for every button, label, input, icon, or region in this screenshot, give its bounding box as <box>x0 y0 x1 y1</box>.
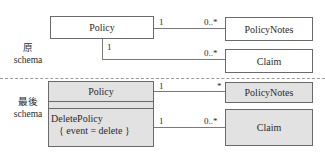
multiplicity-label: 1 <box>159 18 164 27</box>
class-name: PolicyNotes <box>245 87 294 98</box>
label-line2: schema <box>8 108 48 120</box>
policy-class-final: Policy DeletePolicy { event = delete } <box>48 81 154 147</box>
class-name: Policy <box>89 22 115 33</box>
original-schema-label: 原 schema <box>8 42 48 66</box>
class-name: Claim <box>257 56 281 67</box>
multiplicity-label: 1 <box>159 117 164 126</box>
policy-class-original: Policy <box>50 16 154 39</box>
operation-compartment: DeletePolicy { event = delete } <box>51 113 130 137</box>
class-name: Claim <box>257 122 281 133</box>
policynotes-class-final: PolicyNotes <box>225 82 313 103</box>
final-schema-label: 最後 schema <box>8 96 48 120</box>
label-line1: 原 <box>8 42 48 54</box>
compartment-divider <box>49 108 153 109</box>
association-line-claim-final <box>154 127 225 128</box>
association-line-notes-original <box>154 28 225 29</box>
association-line-claim-vertical <box>102 39 103 60</box>
association-line-notes-final <box>154 91 225 92</box>
event-constraint: { event = delete } <box>51 125 130 137</box>
association-line-claim-horizontal <box>102 59 225 60</box>
label-line1: 最後 <box>8 96 48 108</box>
multiplicity-label: 0..* <box>204 117 218 126</box>
operation-name: DeletePolicy <box>51 113 130 125</box>
class-name: PolicyNotes <box>245 24 294 35</box>
class-name: Policy <box>49 82 153 101</box>
section-divider <box>0 78 325 79</box>
claim-class-final: Claim <box>225 109 313 146</box>
multiplicity-label: 0..* <box>204 49 218 58</box>
policynotes-class-original: PolicyNotes <box>225 17 313 41</box>
multiplicity-label: 1 <box>107 43 112 52</box>
claim-class-original: Claim <box>225 49 313 73</box>
label-line2: schema <box>8 54 48 66</box>
multiplicity-label: 0..* <box>204 18 218 27</box>
compartment-divider <box>49 101 153 102</box>
multiplicity-label: 1 <box>159 82 164 91</box>
multiplicity-label: * <box>217 82 222 91</box>
